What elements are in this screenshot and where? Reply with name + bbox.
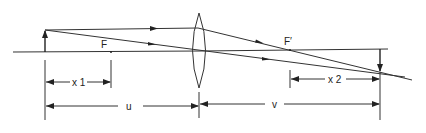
front-focus-label: F <box>101 39 107 50</box>
front-focus-point <box>110 51 112 53</box>
x2-label: x 2 <box>328 74 342 85</box>
optical-axis-right <box>200 49 388 51</box>
optical-axis <box>13 51 200 52</box>
back-focus-label: F′ <box>284 36 292 47</box>
back-focus-point <box>289 49 291 51</box>
x1-label: x 1 <box>72 77 86 88</box>
ray-chief <box>45 30 405 77</box>
ray-parallel-arrow <box>150 26 158 31</box>
u-label: u <box>126 101 132 112</box>
v-label: v <box>272 99 277 110</box>
ray-chief-arrow <box>148 42 156 46</box>
lens-ray-diagram: F F′ x 1 u x 2 v <box>0 0 426 133</box>
ray-parallel <box>45 28 198 30</box>
ray-refracted-arrow <box>255 40 264 44</box>
